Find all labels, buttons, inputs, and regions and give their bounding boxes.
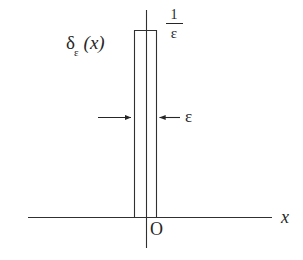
epsilon-subscript: ε <box>74 46 79 58</box>
function-label: δε(x) <box>66 33 105 56</box>
pulse-rectangle <box>135 31 157 218</box>
function-argument: (x) <box>84 32 105 53</box>
fraction-numerator: 1 <box>163 8 185 23</box>
origin-label: O <box>150 220 163 238</box>
x-axis-label: x <box>281 208 289 226</box>
fraction-denominator: ε <box>163 24 185 41</box>
height-label: 1 ε <box>163 8 185 41</box>
width-label: ε <box>185 108 192 125</box>
delta-function-figure: δε(x) 1 ε ε O x <box>0 0 303 260</box>
